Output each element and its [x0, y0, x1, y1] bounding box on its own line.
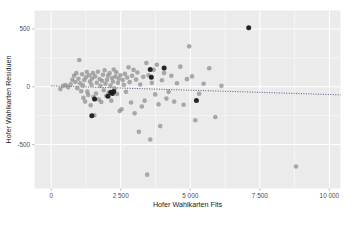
data-point [125, 75, 130, 80]
y-tick-label: 0 [27, 83, 31, 90]
data-point [172, 99, 177, 104]
data-point [111, 79, 116, 84]
data-point [294, 164, 299, 169]
data-point [140, 104, 145, 109]
data-point [213, 115, 218, 120]
data-point [102, 68, 107, 73]
data-point [246, 25, 251, 30]
residual-scatter-plot: 02 5005 0007 50010 0005000-500Hofer Wahl… [0, 0, 352, 231]
data-point [185, 77, 190, 82]
data-point [132, 111, 137, 116]
data-point [201, 81, 206, 86]
data-point [193, 118, 198, 123]
data-point [68, 82, 73, 87]
data-point [109, 98, 114, 103]
data-point [124, 90, 129, 95]
y-tick-label: -500 [17, 141, 30, 148]
data-point [105, 78, 110, 83]
data-point [107, 71, 112, 76]
data-point [98, 84, 103, 89]
data-point [160, 78, 165, 83]
x-tick-label: 2 500 [113, 192, 129, 199]
data-point [178, 64, 183, 69]
data-point [94, 91, 99, 96]
data-point [181, 103, 186, 108]
data-point [175, 81, 180, 86]
data-point [153, 92, 158, 97]
data-point [145, 172, 150, 177]
data-point [144, 61, 149, 66]
data-point [74, 71, 79, 76]
data-point [96, 69, 101, 74]
data-point [131, 68, 136, 73]
data-point [149, 75, 154, 80]
data-point [156, 102, 161, 107]
chart-canvas: 02 5005 0007 50010 0005000-500Hofer Wahl… [0, 0, 352, 231]
x-tick-label: 10 000 [320, 192, 340, 199]
data-point [148, 67, 153, 72]
data-point [76, 76, 81, 81]
data-point [141, 75, 146, 80]
data-point [86, 93, 91, 98]
data-point [148, 137, 153, 142]
data-point [207, 66, 212, 71]
data-point [89, 113, 94, 118]
data-point [118, 73, 123, 78]
data-point [150, 81, 155, 86]
data-point [101, 88, 106, 93]
data-point [122, 82, 127, 87]
data-point [114, 70, 119, 75]
data-point [77, 58, 82, 63]
data-point [119, 107, 124, 112]
data-point [162, 66, 167, 71]
data-point [127, 80, 132, 85]
data-point [80, 72, 85, 77]
x-tick-label: 0 [49, 192, 53, 199]
data-point [187, 44, 192, 49]
x-tick-label: 7 500 [252, 192, 268, 199]
data-point [108, 83, 113, 88]
data-point [126, 65, 131, 70]
data-point [88, 103, 93, 108]
y-tick-label: 500 [19, 25, 30, 32]
data-point [101, 72, 106, 77]
data-point [120, 78, 125, 83]
data-point [103, 81, 108, 86]
y-axis-title: Hofer Wahlkarten Residuen [4, 55, 13, 143]
data-point [129, 100, 134, 105]
data-point [95, 80, 100, 85]
data-point [111, 89, 116, 94]
data-point [137, 130, 142, 135]
data-point [166, 90, 171, 95]
x-tick-label: 5 000 [182, 192, 198, 199]
data-point [142, 98, 147, 103]
data-point [81, 83, 86, 88]
data-point [83, 99, 88, 104]
data-point [155, 63, 160, 68]
data-point [194, 98, 199, 103]
data-point [99, 100, 104, 105]
data-point [116, 81, 121, 86]
data-point [164, 96, 169, 101]
data-point [197, 91, 202, 96]
data-point [135, 70, 140, 75]
data-point [130, 73, 135, 78]
data-point [158, 124, 163, 129]
data-point [75, 86, 80, 91]
data-point [169, 73, 174, 78]
data-point [134, 77, 139, 82]
data-point [93, 74, 98, 79]
data-point [219, 84, 224, 89]
data-point [89, 82, 94, 87]
data-point [138, 82, 143, 87]
data-point [162, 71, 167, 76]
data-point [92, 96, 97, 101]
x-axis-title: Hofer Wahlkarten Fits [153, 200, 223, 209]
data-point [79, 89, 84, 94]
data-point [190, 74, 195, 79]
